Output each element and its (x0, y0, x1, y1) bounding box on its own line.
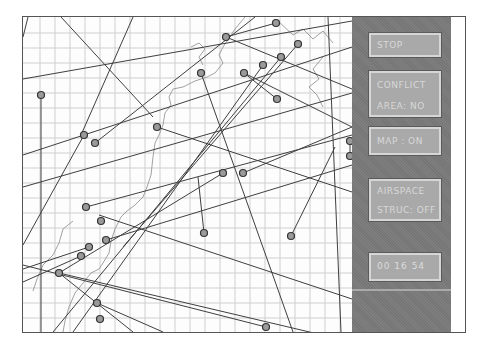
map-grid (23, 17, 352, 332)
flight-tracks (23, 17, 352, 332)
stop-label: STOP (377, 39, 433, 52)
airspace-label-line2: STRUC: OFF (377, 204, 433, 217)
atc-display-frame: STOP CONFLICT AREA: NO MAP : ON AIRSPACE… (22, 16, 466, 333)
map-label: MAP : ON (377, 135, 433, 148)
map-toggle-button[interactable]: MAP : ON (369, 127, 441, 155)
airspace-label-line1: AIRSPACE (377, 185, 433, 198)
panel-margin (451, 17, 466, 332)
clock-display: 00 16 54 (369, 253, 441, 281)
panel-divider (352, 289, 451, 291)
stop-button[interactable]: STOP (369, 33, 441, 57)
conflict-area-button[interactable]: CONFLICT AREA: NO (369, 71, 441, 117)
airspace-structure-button[interactable]: AIRSPACE STRUC: OFF (369, 179, 441, 221)
radar-map[interactable] (23, 17, 352, 332)
control-panel: STOP CONFLICT AREA: NO MAP : ON AIRSPACE… (352, 17, 451, 332)
conflict-label-line2: AREA: NO (377, 100, 433, 113)
conflict-label-line1: CONFLICT (377, 79, 433, 92)
